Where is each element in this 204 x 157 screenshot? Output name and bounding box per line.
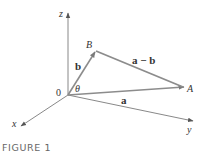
vector-diff-label: a − b [132, 54, 155, 66]
y-axis-label: y [186, 124, 192, 135]
z-axis-label: z [58, 8, 63, 19]
origin-label: 0 [56, 87, 61, 98]
vector-b-label: b [75, 60, 81, 72]
vector-a-label: a [121, 94, 127, 106]
theta-label: θ [75, 83, 80, 94]
point-b-label: B [86, 39, 92, 50]
point-a-label: A [186, 83, 194, 94]
y-axis [68, 95, 193, 121]
x-axis [21, 95, 68, 126]
figure-caption: FIGURE 1 [2, 142, 51, 153]
x-axis-label: x [11, 118, 17, 129]
vector-diagram: z x y 0 B A b a a − b θ [0, 0, 204, 157]
vector-b [68, 52, 95, 95]
